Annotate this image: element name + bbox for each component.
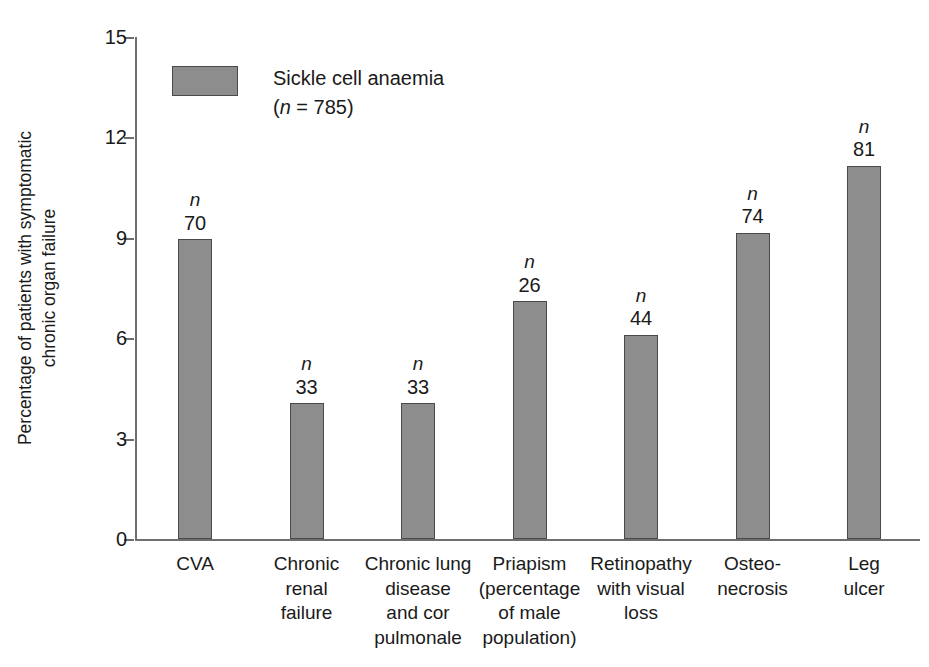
y-tick-label: 0 (116, 529, 127, 549)
bar-value-label: n74 (741, 183, 763, 229)
legend-text: Sickle cell anaemia (n = 785) (273, 64, 444, 122)
bar-n-symbol: n (407, 353, 429, 375)
bar-n-symbol: n (518, 251, 540, 273)
bar[interactable]: n33 (290, 403, 324, 539)
chart-figure: Percentage of patients with symptomatic … (0, 0, 929, 667)
x-tick-label: Priapism (percentage of male population) (474, 552, 586, 651)
bar-n-value: 44 (630, 307, 652, 331)
bar[interactable]: n44 (624, 335, 658, 539)
bar-n-symbol: n (184, 189, 206, 211)
bar-n-symbol: n (630, 285, 652, 307)
y-tick-label: 9 (116, 228, 127, 248)
bar[interactable]: n26 (513, 301, 547, 539)
x-tick-label: Leg ulcer (808, 552, 920, 601)
x-tick-label: Chronic renal failure (251, 552, 363, 626)
bar-value-label: n33 (295, 353, 317, 399)
bar-value-label: n26 (518, 251, 540, 297)
y-axis-title: Percentage of patients with symptomatic … (14, 28, 61, 548)
bar-n-symbol: n (853, 116, 875, 138)
bar-n-value: 70 (184, 212, 206, 236)
bar-value-label: n70 (184, 189, 206, 235)
bar-group: n81 (847, 37, 881, 539)
y-tick-label: 3 (116, 429, 127, 449)
x-tick-label: Osteo- necrosis (697, 552, 809, 601)
bar-value-label: n44 (630, 285, 652, 331)
bar-group: n44 (624, 37, 658, 539)
bar-value-label: n33 (407, 353, 429, 399)
bar-value-label: n81 (853, 116, 875, 162)
legend-label: Sickle cell anaemia (273, 64, 444, 93)
y-tick-label: 12 (105, 127, 127, 147)
x-tick-label: Chronic lung disease and cor pulmonale (362, 552, 474, 651)
bar[interactable]: n33 (401, 403, 435, 539)
y-axis-line (135, 37, 137, 539)
bar-n-value: 81 (853, 138, 875, 162)
legend-paren-open: ( (273, 96, 280, 118)
bar-n-value: 33 (407, 376, 429, 400)
x-tick-label: CVA (139, 552, 251, 577)
bar-group: n26 (513, 37, 547, 539)
legend-n-value: = 785) (291, 96, 354, 118)
x-tick-label: Retinopathy with visual loss (585, 552, 697, 626)
legend-swatch-sickle-cell-anaemia (172, 66, 238, 96)
bar-n-value: 26 (518, 274, 540, 298)
legend: Sickle cell anaemia (n = 785) (172, 64, 444, 122)
legend-sample-size: (n = 785) (273, 93, 444, 122)
bar[interactable]: n81 (847, 166, 881, 539)
bar-n-symbol: n (741, 183, 763, 205)
bar[interactable]: n74 (736, 233, 770, 539)
bar-n-value: 74 (741, 205, 763, 229)
y-tick-label: 15 (105, 27, 127, 47)
bar[interactable]: n70 (178, 239, 212, 539)
bar-n-symbol: n (295, 353, 317, 375)
y-tick-label: 6 (116, 328, 127, 348)
bar-n-value: 33 (295, 376, 317, 400)
bar-group: n74 (736, 37, 770, 539)
x-axis-line (135, 539, 920, 541)
legend-n-symbol: n (280, 96, 291, 118)
